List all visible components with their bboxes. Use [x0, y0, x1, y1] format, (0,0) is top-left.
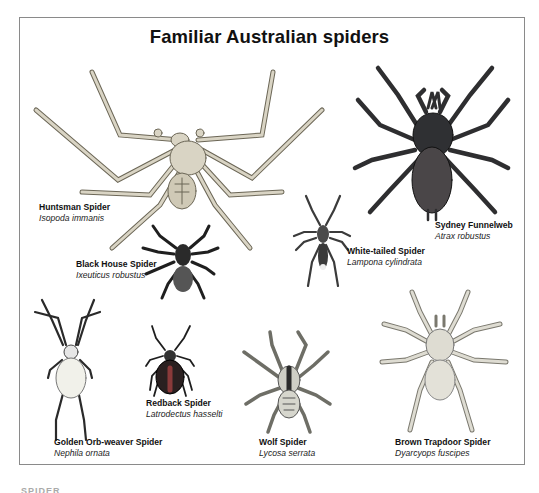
- common-name: Black House Spider: [76, 259, 157, 270]
- golden-orb-weaver-illustration: [35, 300, 100, 440]
- label-white-tailed: White-tailed Spider Lampona cylindrata: [347, 246, 425, 267]
- label-golden-orb-weaver: Golden Orb-weaver Spider Nephila ornata: [54, 437, 162, 458]
- label-redback: Redback Spider Latrodectus hasselti: [146, 398, 222, 419]
- label-wolf: Wolf Spider Lycosa serrata: [259, 437, 315, 458]
- scientific-name: Atrax robustus: [435, 231, 513, 242]
- scientific-name: Lampona cylindrata: [347, 257, 425, 268]
- scientific-name: Ixeuticus robustus: [76, 270, 157, 281]
- scientific-name: Latrodectus hasselti: [146, 409, 222, 420]
- spider-illustrations: [0, 0, 539, 493]
- common-name: Golden Orb-weaver Spider: [54, 437, 162, 448]
- footer-text: SPIDER: [21, 486, 61, 493]
- wolf-spider-illustration: [244, 332, 330, 432]
- label-black-house: Black House Spider Ixeuticus robustus: [76, 259, 157, 280]
- common-name: Sydney Funnelweb: [435, 220, 513, 231]
- common-name: Wolf Spider: [259, 437, 315, 448]
- funnelweb-spider-illustration: [355, 68, 508, 220]
- scientific-name: Nephila ornata: [54, 448, 162, 459]
- scientific-name: Lycosa serrata: [259, 448, 315, 459]
- redback-spider-illustration: [146, 326, 194, 396]
- white-tailed-spider-illustration: [294, 196, 350, 286]
- scientific-name: Isopoda immanis: [39, 213, 110, 224]
- common-name: White-tailed Spider: [347, 246, 425, 257]
- scientific-name: Dyarcyops fuscipes: [395, 448, 491, 459]
- common-name: Huntsman Spider: [39, 202, 110, 213]
- brown-trapdoor-spider-illustration: [382, 292, 506, 430]
- label-huntsman: Huntsman Spider Isopoda immanis: [39, 202, 110, 223]
- common-name: Brown Trapdoor Spider: [395, 437, 491, 448]
- common-name: Redback Spider: [146, 398, 222, 409]
- label-brown-trapdoor: Brown Trapdoor Spider Dyarcyops fuscipes: [395, 437, 491, 458]
- label-funnelweb: Sydney Funnelweb Atrax robustus: [435, 220, 513, 241]
